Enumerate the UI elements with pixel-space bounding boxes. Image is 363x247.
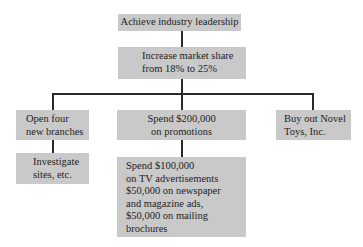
tactic-2-line-2: on TV advertisements bbox=[126, 173, 246, 186]
tactic-2-line-5: $50,000 on mailing bbox=[126, 210, 246, 223]
strategy-1-line-2: new branches bbox=[26, 126, 89, 139]
connector-goal-objective bbox=[181, 30, 183, 47]
tactic-2-line-1: Spend $100,000 bbox=[126, 160, 246, 173]
tactic-1-line-1: Investigate bbox=[33, 156, 89, 169]
strategy-promotions-box: Spend $200,000 on promotions bbox=[117, 110, 246, 140]
connector-bus-middle bbox=[181, 93, 183, 110]
strategy-3-line-1: Buy out Novel bbox=[284, 113, 351, 126]
tactic-1-line-2: sites, etc. bbox=[33, 169, 89, 182]
connector-bus-right bbox=[312, 93, 314, 110]
strategy-buy-novel-toys-box: Buy out Novel Toys, Inc. bbox=[276, 110, 351, 140]
strategy-2-line-1: Spend $200,000 bbox=[117, 113, 246, 126]
objective-line-2: from 18% to 25% bbox=[142, 63, 246, 76]
strategy-1-line-1: Open four bbox=[26, 113, 89, 126]
tactic-2-line-6: brochures bbox=[126, 223, 246, 236]
goal-box: Achieve industry leadership bbox=[118, 14, 241, 31]
objective-line-1: Increase market share bbox=[142, 50, 246, 63]
connector-bus-left bbox=[52, 93, 54, 110]
connector-left-child bbox=[52, 139, 54, 153]
connector-middle-child bbox=[181, 139, 183, 157]
strategy-2-line-2: on promotions bbox=[117, 126, 246, 139]
strategy-3-line-2: Toys, Inc. bbox=[284, 126, 351, 139]
tactic-2-line-4: and magazine ads, bbox=[126, 198, 246, 211]
tactic-2-line-3: $50,000 on newspaper bbox=[126, 185, 246, 198]
connector-horizontal-bus bbox=[52, 93, 314, 95]
tactic-advertising-spend-box: Spend $100,000 on TV advertisements $50,… bbox=[117, 157, 246, 237]
strategy-open-branches-box: Open four new branches bbox=[16, 110, 89, 140]
connector-objective-bus bbox=[181, 78, 183, 94]
goal-text: Achieve industry leadership bbox=[118, 16, 241, 29]
objective-box: Increase market share from 18% to 25% bbox=[118, 47, 246, 79]
tactic-investigate-sites-box: Investigate sites, etc. bbox=[16, 153, 89, 184]
